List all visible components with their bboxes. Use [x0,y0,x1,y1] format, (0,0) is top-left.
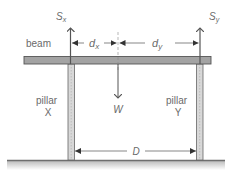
beam [24,57,211,65]
pillar-y-label: pillar Y [166,95,190,118]
force-x-label: Sx [56,11,67,23]
beam-pillar-diagram: beam pillar X pillar Y W Sx Sy dx dy D [0,0,231,174]
pillar-x-label: pillar X [36,95,60,118]
beam-label: beam [26,38,51,49]
dist-y-label: dy [152,37,163,51]
ground [7,161,225,171]
weight-label: W [113,104,124,115]
span-label: D [132,146,139,157]
force-y-label: Sy [209,11,220,24]
pillar-x [68,64,75,160]
pillar-y [197,64,204,160]
dist-x-label: dx [89,37,100,51]
